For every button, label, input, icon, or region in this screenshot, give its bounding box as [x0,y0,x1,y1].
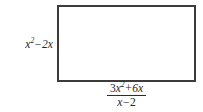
left-side-expression: x2−2x [25,38,53,50]
left-operator: − [34,38,42,50]
denominator-constant: 2 [130,96,136,108]
fraction: 3x2+6x x−2 [107,83,146,109]
left-side-label: x2−2x [0,0,53,87]
bottom-side-label: 3x2+6x x−2 [57,83,196,109]
left-second-term: 2x [42,38,53,50]
denominator-operator: − [122,96,130,108]
fraction-numerator: 3x2+6x [107,83,146,96]
numerator-second-term: 6x [132,82,143,94]
rectangle-figure: x2−2x 3x2+6x x−2 [0,0,203,112]
fraction-denominator: x−2 [114,96,138,108]
rectangle-outline [57,5,196,82]
